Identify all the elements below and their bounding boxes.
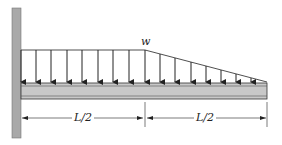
- fixed-wall: [12, 8, 21, 138]
- beam: [21, 83, 267, 99]
- beam-diagram: [0, 0, 282, 145]
- load-profile-line: [21, 50, 267, 82]
- load-arrows: [21, 50, 251, 82]
- dimension-left-label: L/2: [72, 112, 94, 124]
- load-intensity-label: w: [139, 36, 152, 48]
- dimension-right-label: L/2: [194, 112, 216, 124]
- dimension-lines: [22, 102, 267, 127]
